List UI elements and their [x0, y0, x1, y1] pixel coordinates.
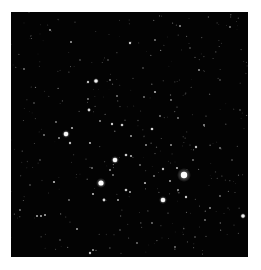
- faint-star: [233, 109, 234, 110]
- faint-star: [233, 224, 234, 225]
- faint-star: [119, 85, 120, 86]
- faint-star: [138, 42, 139, 43]
- star: [125, 154, 128, 157]
- faint-star: [186, 212, 187, 213]
- faint-star: [35, 87, 36, 88]
- faint-star: [234, 192, 235, 193]
- star-field: [11, 12, 248, 257]
- faint-star: [32, 167, 33, 168]
- faint-star: [163, 80, 164, 81]
- faint-star: [242, 112, 243, 113]
- faint-star: [116, 194, 117, 195]
- faint-star: [168, 161, 169, 162]
- faint-star: [183, 136, 184, 137]
- star: [112, 174, 114, 176]
- faint-star: [47, 24, 48, 25]
- faint-star: [174, 248, 175, 249]
- faint-star: [109, 247, 110, 248]
- faint-star: [69, 221, 70, 222]
- faint-star: [205, 236, 206, 237]
- star: [159, 115, 161, 117]
- faint-star: [191, 79, 192, 80]
- faint-star: [175, 232, 176, 233]
- faint-star: [185, 138, 186, 139]
- faint-star: [17, 218, 18, 219]
- faint-star: [95, 250, 96, 251]
- faint-star: [183, 234, 184, 235]
- faint-star: [225, 179, 226, 180]
- star: [169, 180, 171, 182]
- faint-star: [189, 18, 190, 19]
- faint-star: [218, 40, 219, 41]
- faint-star: [104, 57, 105, 58]
- star: [241, 214, 245, 218]
- faint-star: [176, 25, 177, 26]
- faint-star: [103, 97, 104, 98]
- star: [145, 144, 147, 146]
- faint-star: [68, 52, 69, 53]
- star: [154, 91, 156, 93]
- star: [185, 196, 187, 198]
- faint-star: [20, 175, 21, 176]
- faint-star: [129, 196, 130, 197]
- faint-star: [39, 61, 40, 62]
- star: [92, 193, 94, 195]
- faint-star: [239, 208, 240, 209]
- faint-star: [202, 254, 203, 255]
- faint-star: [116, 79, 117, 80]
- faint-star: [24, 108, 25, 109]
- faint-star: [220, 222, 221, 223]
- faint-star: [181, 50, 182, 51]
- faint-star: [58, 20, 59, 21]
- faint-star: [145, 170, 146, 171]
- star: [113, 158, 118, 163]
- star: [219, 147, 221, 149]
- faint-star: [161, 138, 162, 139]
- faint-star: [177, 81, 178, 82]
- star: [99, 120, 101, 122]
- star: [89, 252, 91, 254]
- faint-star: [137, 120, 138, 121]
- faint-star: [30, 36, 31, 37]
- faint-star: [244, 128, 245, 129]
- faint-star: [189, 144, 190, 145]
- faint-star: [44, 91, 45, 92]
- faint-star: [169, 193, 170, 194]
- star: [91, 167, 93, 169]
- faint-star: [218, 24, 219, 25]
- faint-star: [164, 117, 165, 118]
- faint-star: [106, 200, 107, 201]
- faint-star: [195, 199, 196, 200]
- faint-star: [160, 225, 161, 226]
- star: [239, 109, 241, 111]
- faint-star: [156, 240, 157, 241]
- faint-star: [38, 54, 39, 55]
- faint-star: [218, 78, 219, 79]
- faint-star: [209, 145, 210, 146]
- faint-star: [62, 100, 63, 101]
- faint-star: [45, 234, 46, 235]
- faint-star: [191, 149, 192, 150]
- faint-star: [147, 210, 148, 211]
- faint-star: [205, 211, 206, 212]
- faint-star: [183, 228, 184, 229]
- star: [109, 169, 111, 171]
- faint-star: [179, 80, 180, 81]
- faint-star: [74, 22, 75, 23]
- faint-star: [93, 89, 94, 90]
- faint-star: [203, 56, 204, 57]
- faint-star: [178, 34, 179, 35]
- faint-star: [137, 125, 138, 126]
- faint-star: [27, 161, 28, 162]
- faint-star: [59, 189, 60, 190]
- star: [55, 121, 57, 123]
- faint-star: [171, 61, 172, 62]
- faint-star: [13, 65, 14, 66]
- faint-star: [80, 174, 81, 175]
- faint-star: [185, 92, 186, 93]
- star: [29, 184, 31, 186]
- faint-star: [221, 175, 222, 176]
- faint-star: [158, 172, 159, 173]
- faint-star: [127, 106, 128, 107]
- faint-star: [242, 174, 243, 175]
